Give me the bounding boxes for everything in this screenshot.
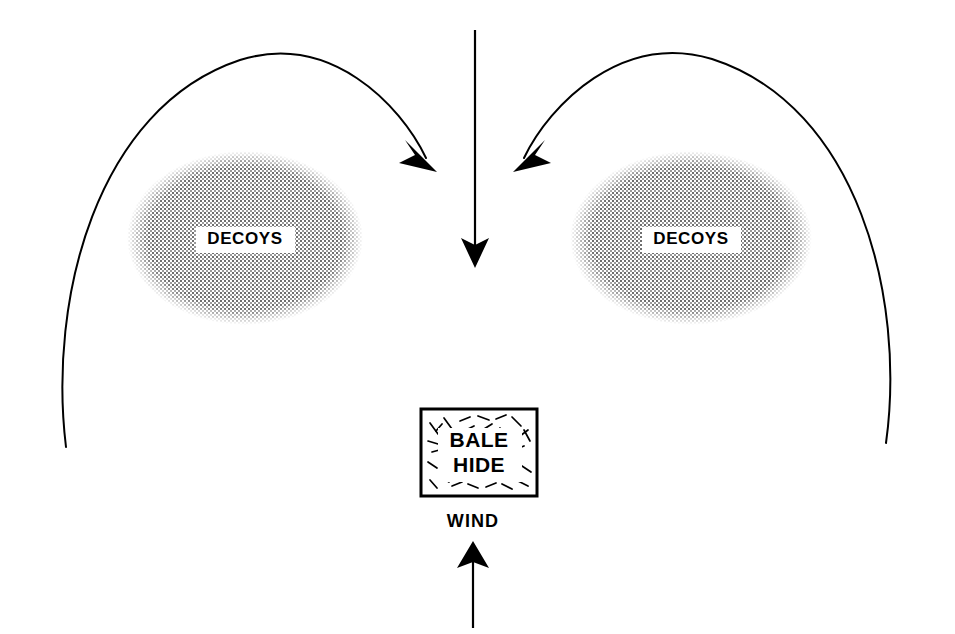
bale-hide-label-line2: HIDE [453,453,505,476]
left-decoy-label: DECOYS [207,229,282,248]
right-decoy-label: DECOYS [653,229,728,248]
bale-hide-blind: BALE HIDE [421,409,537,496]
diagram-background [0,0,955,634]
bale-hide-label-line1: BALE [450,428,509,451]
right-decoy-spread: DECOYS [570,151,812,325]
left-decoy-spread: DECOYS [127,151,363,325]
wind-label: WIND [447,511,499,531]
diagram-canvas: DECOYS DECOYS [0,0,955,634]
decoy-spread-diagram: DECOYS DECOYS [0,0,955,634]
